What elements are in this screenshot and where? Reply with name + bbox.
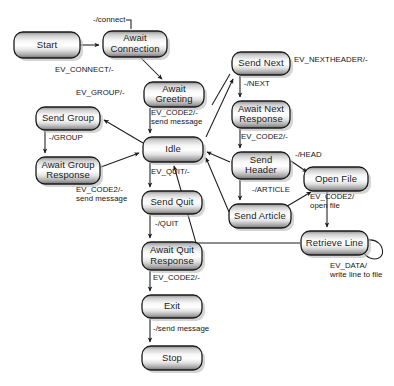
edge-label-open-file-to-retrieve-line: EV_CODE2/open file [310,192,355,210]
state-node-await_quit_resp[interactable]: Await QuitResponse [142,242,205,273]
state-node-start[interactable]: Start [14,32,83,61]
diagram-canvas: StartAwaitConnectionAwaitGreetingSend Gr… [0,0,394,386]
edge-label-await-quit-resp-to-exit: EV_CODE2/- [153,273,200,282]
edge-send-article-to-idle [206,158,229,212]
node-label-text: Header [245,164,277,175]
edge-label-text: send message [151,117,202,126]
edge-send-next-inbound-tick [212,74,230,105]
node-label-text: Send Next [238,57,284,68]
node-label-text: Start [37,39,58,50]
edge-await-group-resp-to-idle [101,153,139,167]
state-node-send_header[interactable]: SendHeader [232,152,293,182]
node-label-text: Send Group [42,112,94,123]
node-label-text: Greeting [155,93,192,104]
edge-label-text: EV_CODE2/- [241,132,288,141]
state-node-idle[interactable]: Idle [143,137,206,165]
state-node-send_next[interactable]: Send Next [232,52,293,78]
state-node-exit[interactable]: Exit [142,295,205,321]
edge-label-idle-to-send-group: EV_GROUP/- [76,88,125,97]
edge-label-retrieve-line-self-loop: EV_DATA/write line to file [329,261,382,279]
edge-label-text: EV_CONNECT/- [55,65,114,74]
node-label-text: Response [239,113,283,124]
edge-idle-to-send-group [104,120,143,143]
edge-label-text: EV_GROUP/- [76,88,125,97]
edge-label-await-greeting-to-idle: EV_CODE2/-send message [151,108,202,126]
state-node-await_group_resp[interactable]: Await GroupResponse [36,157,103,187]
edge-label-text: EV_QUIT/- [151,167,190,176]
edge-label-text: open file [310,201,340,210]
edge-label-await-next-resp-to-send-header: EV_CODE2/- [241,132,288,141]
edge-label-exit-to-stop: -/send message [153,324,209,333]
edge-label-await-connection-to-await-greeting: EV_CONNECT/- [55,65,114,74]
edge-label-text: -/QUIT [155,219,179,228]
state-node-send_article[interactable]: Send Article [229,204,294,231]
state-node-send_group[interactable]: Send Group [36,107,103,133]
state-node-retrieve_line[interactable]: Retrieve Line [301,231,371,258]
edge-label-text: EV_CODE2/- [76,185,123,194]
edge-send-header-to-idle [207,152,230,162]
node-label-text: Send Quit [150,196,193,207]
edge-label-send-quit-to-await-quit-resp: -/QUIT [155,219,179,228]
edge-label-send-header-to-send-article: -/ARTICLE [252,185,290,194]
edge-label-text: send message [76,194,127,203]
edge-label-text: -/ARTICLE [252,185,290,194]
state-node-await_connection[interactable]: AwaitConnection [103,31,170,60]
state-node-send_quit[interactable]: Send Quit [142,191,205,217]
edge-label-text: EV_DATA/ [330,261,368,270]
edge-label-await-group-resp-to-idle: EV_CODE2/-send message [76,185,127,203]
edge-label-text: -/NEXT [244,79,270,88]
edge-label-start-to-await-connection: -/connect [93,15,126,24]
edge-label-idle-to-send-quit: EV_QUIT/- [151,167,190,176]
edge-label-text: -/GROUP [49,133,83,142]
edge-label-text: -/HEAD [295,150,322,159]
edge-await-connection-to-await-greeting [141,58,162,79]
state-node-open_file[interactable]: Open File [304,167,371,194]
node-label-text: Open File [315,173,357,184]
edge-label-send-group-to-await-group-resp: -/GROUP [49,133,83,142]
edge-label-text: EV_CODE2/- [153,273,200,282]
edge-label-text: EV_CODE2/ [310,192,355,201]
node-label-text: Connection [110,43,159,54]
edge-label-idle-to-send-next: EV_NEXTHEADER/- [294,55,368,64]
node-label-text: Idle [165,143,181,154]
state-machine-diagram: StartAwaitConnectionAwaitGreetingSend Gr… [0,0,394,386]
edge-label-text: EV_CODE2/- [151,108,198,117]
state-node-await_greeting[interactable]: AwaitGreeting [144,82,207,110]
edge-idle-to-send-next [206,79,233,137]
edge-label-send-next-to-await-next-resp: -/NEXT [244,79,270,88]
node-label-text: Response [150,255,194,266]
edge-label-text: EV_NEXTHEADER/- [294,55,368,64]
node-label-text: Response [46,169,90,180]
edge-label-send-header-to-open-file: -/HEAD [295,150,322,159]
edge-label-text: write line to file [329,270,382,279]
node-label-text: Retrieve Line [306,237,363,248]
edge-send-header-to-open-file [291,161,307,172]
node-label-text: Exit [164,300,180,311]
node-label-text: Stop [162,352,182,363]
state-node-await_next_resp[interactable]: Await NextResponse [232,101,293,131]
edge-connect-label-leader [126,20,131,29]
edge-label-text: -/send message [153,324,209,333]
edge-label-text: -/connect [93,15,126,24]
node-label-text: Send Article [234,210,286,221]
state-node-stop[interactable]: Stop [142,346,205,373]
